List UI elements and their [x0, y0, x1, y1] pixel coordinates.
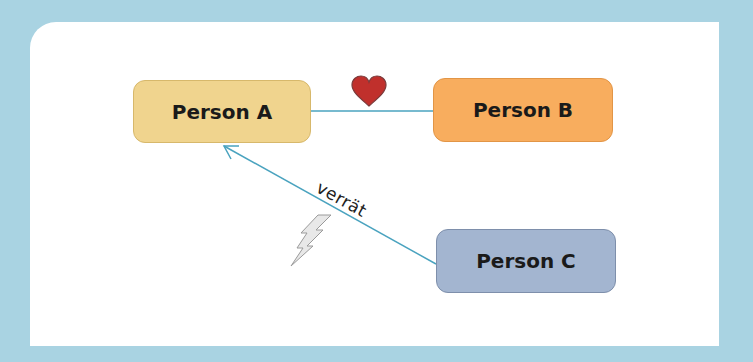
node-person-c: Person C	[436, 229, 616, 293]
node-label: Person C	[476, 249, 576, 273]
node-person-a: Person A	[133, 80, 311, 143]
lightning-icon	[291, 215, 331, 266]
heart-icon	[352, 76, 386, 106]
edge-c-a	[224, 146, 436, 264]
node-label: Person A	[172, 100, 272, 124]
node-person-b: Person B	[433, 78, 613, 142]
edges-layer	[0, 0, 753, 362]
node-label: Person B	[473, 98, 573, 122]
